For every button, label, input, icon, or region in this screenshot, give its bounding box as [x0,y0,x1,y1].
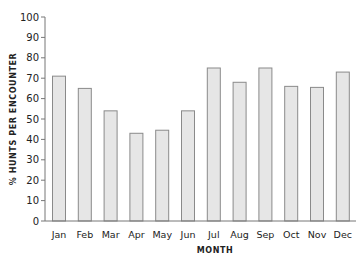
x-axis-title: MONTH [197,246,234,255]
x-tick-label: Sep [256,229,274,240]
x-tick-label: Nov [308,229,327,240]
y-tick-label: 70 [26,73,39,84]
x-tick-label: Jan [51,229,67,240]
x-tick-label: Aug [230,229,249,240]
x-tick-label: May [152,229,172,240]
y-tick-label: 0 [33,216,39,227]
x-tick-label: Apr [128,229,145,240]
y-tick-label: 90 [26,32,39,43]
bar-oct [285,86,298,221]
bar-may [156,130,169,221]
bar-feb [78,88,91,221]
bar-mar [104,111,117,221]
x-tick-label: Jun [180,229,196,240]
bars-group [53,68,350,221]
x-axis: JanFebMarAprMayJunJulAugSepOctNovDec [45,221,356,240]
x-tick-label: Mar [102,229,120,240]
x-tick-label: Dec [334,229,352,240]
bar-dec [336,72,349,221]
y-tick-label: 100 [20,12,39,23]
bar-apr [130,133,143,221]
y-axis-title: % HUNTS PER ENCOUNTER [9,53,18,186]
bar-jul [207,68,220,221]
y-tick-label: 50 [26,114,39,125]
x-tick-label: Jul [207,229,219,240]
bar-nov [311,87,324,221]
bar-aug [233,82,246,221]
y-tick-label: 40 [26,134,39,145]
x-tick-label: Oct [283,229,300,240]
bar-chart: 0102030405060708090100 JanFebMarAprMayJu… [0,0,361,259]
bar-sep [259,68,272,221]
y-tick-label: 30 [26,154,39,165]
x-tick-label: Feb [76,229,93,240]
y-tick-label: 80 [26,52,39,63]
bar-jan [53,76,66,221]
y-axis: 0102030405060708090100 [20,12,45,227]
y-tick-label: 10 [26,195,39,206]
bar-jun [182,111,195,221]
y-tick-label: 60 [26,93,39,104]
y-tick-label: 20 [26,175,39,186]
